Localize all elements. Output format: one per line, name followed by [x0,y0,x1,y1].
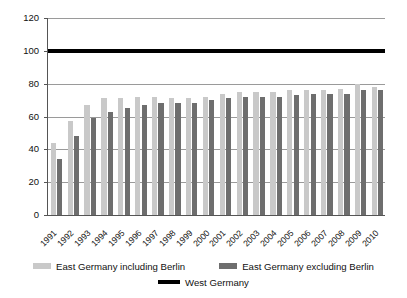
x-axis-label-1998: 1998 [157,228,178,249]
bar-excluding-berlin-1995 [125,108,130,215]
bar-excluding-berlin-2006 [311,94,316,215]
x-axis-label-1997: 1997 [140,228,161,249]
bar-excluding-berlin-2004 [277,97,282,215]
bar-excluding-berlin-2003 [260,97,265,215]
legend-label-excluding-berlin: East Germany excluding Berlin [242,261,374,272]
bar-including-berlin-2008 [338,89,343,215]
bar-excluding-berlin-2009 [361,90,366,215]
y-axis-label-0: 0 [34,210,39,220]
x-axis-label-2010: 2010 [360,228,381,249]
y-axis-label-100: 100 [23,46,39,56]
bar-group-2003 [251,18,268,215]
legend-row-line: West Germany [0,274,407,290]
bar-including-berlin-2005 [287,90,292,215]
bar-including-berlin-1993 [84,105,89,215]
x-axis-label-2004: 2004 [258,228,279,249]
bar-including-berlin-2002 [237,92,242,215]
bar-group-1996 [133,18,150,215]
bar-excluding-berlin-1999 [192,103,197,215]
x-axis-label-2009: 2009 [343,228,364,249]
bar-excluding-berlin-2005 [294,95,299,215]
x-axis-label-1996: 1996 [123,228,144,249]
legend-item-west-germany: West Germany [158,277,249,288]
bar-group-2007 [318,18,335,215]
bar-including-berlin-1995 [118,98,123,215]
bar-excluding-berlin-2001 [226,98,231,215]
bar-excluding-berlin-1993 [91,118,96,215]
x-axis-label-1992: 1992 [55,228,76,249]
x-axis-label-2006: 2006 [292,228,313,249]
bar-group-1995 [116,18,133,215]
bar-excluding-berlin-2000 [209,100,214,215]
bar-group-2004 [268,18,285,215]
bar-including-berlin-1991 [51,143,56,215]
bar-group-2009 [352,18,369,215]
legend-row-bars: East Germany including Berlin East Germa… [0,258,407,274]
bar-group-1992 [65,18,82,215]
bar-including-berlin-2003 [253,92,258,215]
bar-excluding-berlin-1997 [158,103,163,215]
y-axis-label-80: 80 [28,79,39,89]
legend-swatch-excluding-berlin-icon [219,263,237,269]
bar-including-berlin-2010 [372,87,377,215]
bar-group-1993 [82,18,99,215]
bar-including-berlin-2006 [304,90,309,215]
x-axis-label-2003: 2003 [241,228,262,249]
bar-including-berlin-2001 [220,94,225,215]
bar-excluding-berlin-1991 [57,159,62,215]
bar-group-2001 [217,18,234,215]
chart-container: 020406080100120 199119921993199419951996… [0,0,407,298]
bar-excluding-berlin-2010 [378,90,383,215]
bar-group-2000 [200,18,217,215]
x-axis-label-2008: 2008 [326,228,347,249]
bar-including-berlin-1994 [101,98,106,215]
bar-including-berlin-2000 [203,97,208,215]
bar-excluding-berlin-1994 [108,112,113,215]
bar-group-2010 [369,18,386,215]
legend-label-including-berlin: East Germany including Berlin [56,261,185,272]
bar-including-berlin-1997 [152,97,157,215]
bar-group-1994 [99,18,116,215]
legend-item-excluding-berlin: East Germany excluding Berlin [219,261,374,272]
x-axis-label-1995: 1995 [106,228,127,249]
x-axis-label-2005: 2005 [275,228,296,249]
x-axis-label-1991: 1991 [38,228,59,249]
legend-label-west-germany: West Germany [185,277,249,288]
x-axis-label-2000: 2000 [191,228,212,249]
y-axis-label-120: 120 [23,13,39,23]
bar-group-1998 [166,18,183,215]
west-germany-reference-line [48,49,385,52]
y-axis-label-60: 60 [28,112,39,122]
bar-excluding-berlin-2008 [344,94,349,215]
bar-group-2002 [234,18,251,215]
y-axis-label-40: 40 [28,145,39,155]
chart-legend: East Germany including Berlin East Germa… [0,258,407,290]
legend-swatch-west-germany-icon [158,280,180,283]
bar-including-berlin-2007 [321,90,326,215]
bar-group-1991 [48,18,65,215]
x-axis-label-2002: 2002 [224,228,245,249]
bar-including-berlin-1999 [186,98,191,215]
bar-series-layer [48,18,385,215]
x-axis-label-1994: 1994 [89,228,110,249]
bar-excluding-berlin-2002 [243,97,248,215]
bar-group-1999 [183,18,200,215]
legend-item-including-berlin: East Germany including Berlin [33,261,185,272]
bar-excluding-berlin-1996 [142,105,147,215]
x-axis-label-1993: 1993 [72,228,93,249]
y-axis-label-20: 20 [28,177,39,187]
x-axis-label-1999: 1999 [174,228,195,249]
y-axis: 020406080100120 [0,18,44,215]
bar-including-berlin-1998 [169,98,174,215]
bar-including-berlin-2004 [270,92,275,215]
bar-group-2006 [302,18,319,215]
legend-swatch-including-berlin-icon [33,263,51,269]
x-axis-label-2001: 2001 [207,228,228,249]
bar-including-berlin-1996 [135,97,140,215]
bar-group-2008 [335,18,352,215]
plot-area [47,18,385,215]
x-axis: 1991199219931994199519961997199819992000… [47,216,385,262]
bar-including-berlin-1992 [68,121,73,215]
bar-excluding-berlin-1992 [74,136,79,215]
bar-excluding-berlin-2007 [327,94,332,215]
